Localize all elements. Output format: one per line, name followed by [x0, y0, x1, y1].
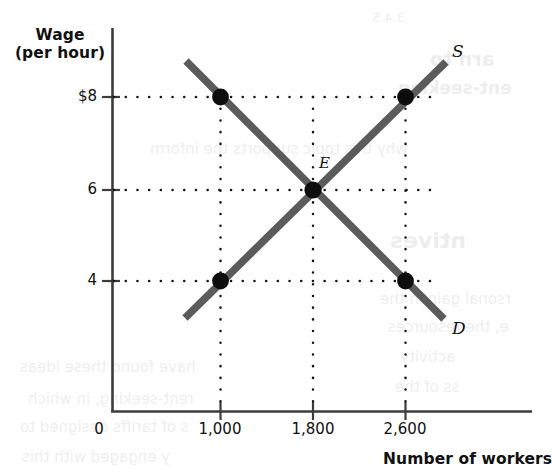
- origin-label: 0: [89, 421, 109, 439]
- equilibrium-point-label: E: [319, 155, 330, 173]
- y-tick-label-6: 6: [55, 181, 97, 199]
- data-point-supply-2600-8: [397, 89, 414, 106]
- y-axis-title: Wage (per hour): [14, 26, 106, 63]
- x-tick-label-1000: 1,000: [180, 421, 260, 439]
- demand-curve-label: D: [452, 318, 466, 338]
- chart-axes: [111, 28, 532, 412]
- gridlines-dotted: [114, 97, 437, 405]
- x-tick-label-1800: 1,800: [273, 421, 353, 439]
- y-tick-label-8: $8: [55, 88, 97, 106]
- data-point-supply-1000-4: [212, 273, 229, 290]
- y-axis-title-line1: Wage: [14, 26, 106, 44]
- data-point-demand-1000-8: [212, 89, 229, 106]
- supply-curve-label: S: [452, 41, 464, 61]
- x-axis-title: Number of workers: [383, 450, 552, 468]
- y-tick-label-4: 4: [55, 272, 97, 290]
- x-tick-label-2600: 2,600: [365, 421, 445, 439]
- data-point-demand-2600-4: [397, 273, 414, 290]
- data-point-equilibrium-1800-6: [304, 181, 321, 198]
- y-axis-title-line2: (per hour): [14, 44, 106, 62]
- y-axis-ticks: [102, 97, 120, 281]
